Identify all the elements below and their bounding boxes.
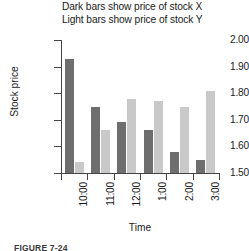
y-axis-tick [54,93,61,94]
y-axis-tick-label: 1.80 [197,87,249,98]
y-axis-tick [54,146,61,147]
bar-stock-Y-200 [180,107,189,174]
y-axis-tick [54,67,61,68]
bar-stock-X-1000 [65,59,74,173]
x-axis-tick-label: 10:00 [78,182,89,207]
bar-stock-Y-100 [154,101,163,173]
bar-stock-Y-1100 [101,130,110,173]
y-axis-tick [54,40,61,41]
x-axis-tick [87,173,88,180]
bar-stock-Y-1200 [127,99,136,173]
bar-stock-Y-1000 [75,162,84,173]
y-axis-tick-label: 2.00 [197,34,249,45]
x-axis-tick [114,173,115,180]
x-axis-tick [61,173,62,180]
y-axis-tick [54,120,61,121]
bar-stock-X-100 [144,130,153,173]
x-axis-tick [166,173,167,180]
y-axis-tick-label: 1.90 [197,61,249,72]
y-axis-tick-label: 1.60 [197,140,249,151]
bar-stock-X-300 [196,160,205,173]
bar-stock-X-200 [170,152,179,173]
y-axis-line [61,40,62,174]
x-axis-tick [140,173,141,180]
x-axis-title: Time [61,222,219,233]
y-axis-tick-label: 1.70 [197,114,249,125]
x-axis-tick-label: 11:00 [105,182,116,206]
x-axis-tick-label: 1:00 [157,182,168,201]
plot-area: Stock price Time 2.001.901.801.701.601.5… [0,0,249,251]
bar-stock-Y-300 [206,91,215,173]
y-axis-tick [54,173,61,174]
bar-stock-X-1200 [117,122,126,173]
figure-caption: FIGURE 7-24 [14,243,68,251]
figure-container: Dark bars show price of stock X Light ba… [0,0,249,251]
y-axis-title: Stock price [9,52,20,132]
x-axis-tick-label: 3:00 [210,182,221,201]
x-axis-tick-label: 12:00 [131,182,142,207]
x-axis-tick-label: 2:00 [184,182,195,201]
bar-stock-X-1100 [91,107,100,174]
x-axis-tick [193,173,194,180]
x-axis-tick [219,173,220,180]
